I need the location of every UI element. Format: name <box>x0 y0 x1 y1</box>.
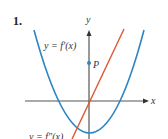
point-p-label: P <box>93 60 99 70</box>
f-double-prime-line <box>72 29 124 139</box>
x-axis-arrow-icon <box>143 99 149 104</box>
f-prime-label: y = f′(x) <box>44 41 76 51</box>
graph-canvas <box>0 0 168 139</box>
y-axis-label: y <box>86 15 90 25</box>
f-double-prime-label: y = f″(x) <box>29 132 63 139</box>
x-axis-label: x <box>151 96 155 106</box>
graph-figure: 1. y x y = f′(x) y = f″(x) P <box>0 0 168 139</box>
point-p-marker <box>87 61 91 65</box>
y-axis-arrow-icon <box>87 30 92 36</box>
problem-number: 1. <box>13 14 22 29</box>
